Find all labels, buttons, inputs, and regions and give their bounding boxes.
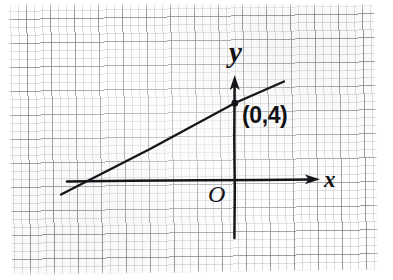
y-intercept-point-marker: [231, 100, 238, 107]
y-axis-line: [234, 84, 235, 238]
y-intercept-coordinate-label: (0,4): [242, 104, 287, 127]
y-axis-label: y: [229, 38, 242, 67]
origin-label: O: [208, 182, 225, 206]
x-axis-line: [67, 179, 311, 181]
x-axis-label: x: [324, 168, 336, 191]
ink-drawing-layer: [0, 0, 393, 280]
figure-canvas: y x O (0,4): [0, 0, 393, 280]
plotted-line: [61, 82, 284, 195]
